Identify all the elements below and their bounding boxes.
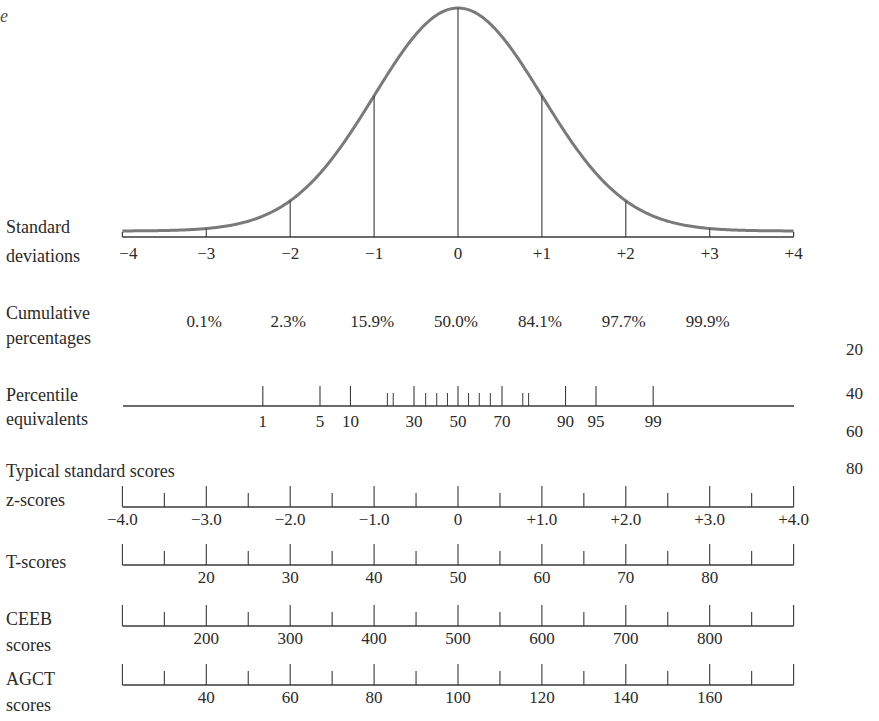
t-scores-tick-label: 60 — [533, 568, 550, 588]
typical-standard-scores-heading: Typical standard scores — [6, 460, 175, 482]
t-scores-tick-label: 80 — [701, 568, 718, 588]
agct-scores-tick-label: 100 — [445, 688, 471, 708]
sd-tick-label: +3 — [701, 244, 719, 264]
ceeb-scores-tick-label: 200 — [194, 629, 220, 649]
ceeb-scores-tick-label: 700 — [613, 629, 639, 649]
agct-scores-tick-label: 160 — [697, 688, 723, 708]
z-scores-tick-label: 0 — [454, 510, 463, 530]
agct-scores-tick-label: 140 — [613, 688, 639, 708]
agct-label-line2: scores — [6, 694, 51, 716]
cumulative-percentage: 15.9% — [350, 312, 394, 332]
t-scores-tick-label: 30 — [282, 568, 299, 588]
cumulative-percentage: 50.0% — [434, 312, 478, 332]
agct-scores-tick-label: 80 — [366, 688, 383, 708]
sd-label-line2: deviations — [6, 245, 80, 267]
t-scores-tick-label: 40 — [366, 568, 383, 588]
agct-scores-tick-label: 40 — [198, 688, 215, 708]
percentile-tick-label: 30 — [406, 412, 423, 432]
cumulative-label-line2: percentages — [6, 327, 91, 349]
percentile-tick-label: 5 — [316, 412, 325, 432]
agct-scores-tick-label: 60 — [282, 688, 299, 708]
cumulative-percentage: 84.1% — [518, 312, 562, 332]
sd-tick-label: +2 — [617, 244, 635, 264]
t-scores-tick-label: 50 — [450, 568, 467, 588]
cumulative-percentage: 2.3% — [270, 312, 305, 332]
sd-tick-label: −3 — [197, 244, 215, 264]
z-scores-tick-label: +2.0 — [610, 510, 641, 530]
cumulative-percentage: 97.7% — [602, 312, 646, 332]
percentile-tick-label: 50 — [450, 412, 467, 432]
z-scores-tick-label: −1.0 — [359, 510, 390, 530]
percentile-tick-label: 70 — [493, 412, 510, 432]
percentile-tick-label: 10 — [342, 412, 359, 432]
percentile-label-line1: Percentile — [6, 384, 78, 406]
z-scores-tick-label: −4.0 — [107, 510, 138, 530]
z-scores-tick-label: +1.0 — [526, 510, 557, 530]
cumulative-label-line1: Cumulative — [6, 302, 90, 324]
z-scores-tick-label: +3.0 — [694, 510, 725, 530]
percentile-tick-label: 99 — [645, 412, 662, 432]
side-number-20: 20 — [846, 340, 863, 360]
t-scores-tick-label: 70 — [617, 568, 634, 588]
ceeb-label-line1: CEEB — [6, 608, 52, 630]
sd-tick-label: +4 — [785, 244, 803, 264]
percentile-tick-label: 95 — [588, 412, 605, 432]
agct-scores-tick-label: 120 — [529, 688, 555, 708]
sd-tick-label: −4 — [119, 244, 137, 264]
cumulative-percentage: 0.1% — [187, 312, 222, 332]
sd-tick-label: +1 — [533, 244, 551, 264]
ceeb-scores-tick-label: 800 — [697, 629, 723, 649]
ceeb-scores-tick-label: 400 — [361, 629, 387, 649]
sd-label-line1: Standard — [6, 216, 70, 238]
z-scores-tick-label: −3.0 — [191, 510, 222, 530]
ceeb-label-line2: scores — [6, 634, 51, 656]
agct-label-line1: AGCT — [6, 668, 55, 690]
t-scores-label: T-scores — [6, 551, 66, 573]
cumulative-percentage: 99.9% — [686, 312, 730, 332]
z-scores-tick-label: +4.0 — [778, 510, 809, 530]
percentile-tick-label: 90 — [557, 412, 574, 432]
z-scores-label: z-scores — [6, 489, 65, 511]
z-scores-tick-label: −2.0 — [275, 510, 306, 530]
side-number-80: 80 — [846, 459, 863, 479]
sd-tick-label: 0 — [454, 244, 463, 264]
percentile-label-line2: equivalents — [6, 408, 88, 430]
sd-tick-label: −1 — [365, 244, 383, 264]
normal-curve-chart — [0, 0, 879, 721]
side-number-60: 60 — [846, 422, 863, 442]
side-number-40: 40 — [846, 384, 863, 404]
ceeb-scores-tick-label: 600 — [529, 629, 555, 649]
ceeb-scores-tick-label: 300 — [277, 629, 303, 649]
percentile-tick-label: 1 — [259, 412, 268, 432]
sd-tick-label: −2 — [281, 244, 299, 264]
t-scores-tick-label: 20 — [198, 568, 215, 588]
ceeb-scores-tick-label: 500 — [445, 629, 471, 649]
